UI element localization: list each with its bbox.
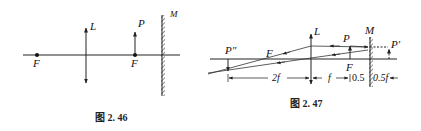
ray-arrow-bottom — [277, 62, 285, 63]
virtual-image-label: P' — [390, 38, 401, 50]
focal-label-right: F — [130, 57, 138, 69]
dim-mirror-left-label: 0.5 — [352, 72, 365, 83]
mirror-label: M — [169, 9, 178, 19]
focal-label-left: F — [265, 47, 273, 59]
object-label: P — [137, 17, 145, 29]
caption-right: 图 2. 47 — [290, 98, 323, 109]
figure-2-46: F L F P M 图 2. 46 — [23, 9, 180, 123]
final-image-label: P" — [224, 44, 237, 56]
caption-left: 图 2. 46 — [95, 112, 128, 123]
optics-diagrams: F L F P M 图 2. 46 L P F M P' — [0, 0, 421, 131]
dim-f-label: f — [328, 72, 332, 83]
lens-label: L — [89, 20, 96, 32]
ray-arrow-lower — [332, 54, 340, 55]
figure-2-47: L P F M P' F P" 2f f 0 — [208, 24, 401, 109]
mirror-label: M — [364, 24, 375, 36]
focal-label-left: F — [32, 57, 40, 69]
object-label: P — [342, 32, 350, 44]
dim-2f-label: 2f — [272, 72, 281, 83]
dim-mirror-right-label: 0.5f — [373, 72, 390, 83]
lens-label: L — [313, 25, 320, 37]
